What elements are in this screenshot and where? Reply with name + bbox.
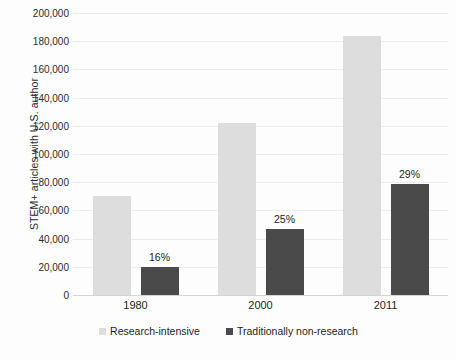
x-axis-tick-label: 1980 [123, 299, 147, 311]
bar-data-label: 16% [149, 251, 170, 263]
bar [141, 267, 179, 295]
x-axis-tick-label: 2011 [374, 299, 398, 311]
bar-data-label: 29% [399, 168, 420, 180]
y-axis-tick-label: 80,000 [5, 177, 69, 188]
chart-legend: Research-intensiveTraditionally non-rese… [0, 325, 457, 337]
bar-chart-figure: STEM+ articles with U.S. author 16%25%29… [0, 0, 457, 359]
bar [218, 123, 256, 295]
axis-baseline [73, 295, 448, 296]
y-axis-tick-label: 40,000 [5, 233, 69, 244]
y-axis-tick-label: 140,000 [5, 92, 69, 103]
y-axis-tick-label: 160,000 [5, 64, 69, 75]
bar [343, 36, 381, 295]
y-axis-tick-label: 100,000 [5, 149, 69, 160]
gridline [73, 98, 448, 99]
gridline [73, 41, 448, 42]
y-axis-tick-label: 60,000 [5, 205, 69, 216]
bar [266, 229, 304, 295]
legend-swatch-icon [226, 328, 233, 335]
y-axis-tick-label: 20,000 [5, 261, 69, 272]
y-axis-tick-label: 0 [5, 290, 69, 301]
gridline [73, 13, 448, 14]
x-axis-tick-label: 2000 [248, 299, 272, 311]
plot-area: 16%25%29% [73, 13, 448, 295]
y-axis-tick-label: 120,000 [5, 120, 69, 131]
gridline [73, 69, 448, 70]
y-axis-tick-label: 200,000 [5, 8, 69, 19]
bar [93, 196, 131, 295]
legend-label: Traditionally non-research [237, 325, 358, 337]
legend-swatch-icon [99, 328, 106, 335]
y-axis-tick-label: 180,000 [5, 36, 69, 47]
legend-item: Research-intensive [99, 325, 200, 337]
legend-item: Traditionally non-research [226, 325, 358, 337]
gridline [73, 154, 448, 155]
bar [391, 184, 429, 295]
bar-data-label: 25% [274, 213, 295, 225]
gridline [73, 126, 448, 127]
legend-label: Research-intensive [110, 325, 200, 337]
